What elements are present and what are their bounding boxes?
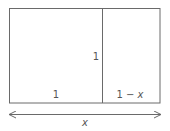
label-left-width: 1: [53, 89, 59, 100]
label-right-width-prefix: 1 −: [116, 89, 137, 100]
label-right-width: 1 − x: [116, 89, 143, 100]
label-right-width-var: x: [137, 89, 144, 100]
diagram-canvas: 1 1 1 − x x: [0, 0, 170, 131]
label-total-width: x: [81, 117, 88, 128]
label-divider-height: 1: [93, 51, 99, 62]
